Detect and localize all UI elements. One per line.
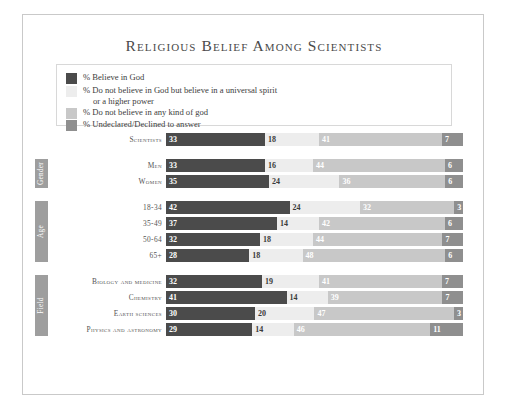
bar-segment-0: 42 bbox=[166, 201, 290, 214]
chart-row: 50-643218447 bbox=[23, 233, 485, 246]
bar-segment-2: 46 bbox=[294, 323, 431, 336]
bar-segment-1: 19 bbox=[262, 275, 319, 288]
row-label: Earth sciences bbox=[51, 307, 162, 320]
stacked-bar: 3020473 bbox=[166, 307, 463, 320]
row-label: Chemistry bbox=[51, 291, 162, 304]
bar-segment-2: 47 bbox=[314, 307, 454, 320]
bar-segment-value: 14 bbox=[255, 323, 263, 336]
bar-segment-2: 44 bbox=[313, 233, 442, 246]
bar-segment-value: 18 bbox=[268, 133, 276, 146]
bar-segment-value: 24 bbox=[293, 201, 301, 214]
bar-segment-value: 7 bbox=[445, 133, 449, 146]
bar-segment-2: 32 bbox=[360, 201, 454, 214]
chart-row: Men3316446 bbox=[23, 159, 485, 172]
bar-segment-2: 41 bbox=[319, 275, 442, 288]
bar-segment-value: 3 bbox=[457, 201, 461, 214]
bar-segment-2: 44 bbox=[313, 159, 445, 172]
bar-segment-value: 24 bbox=[272, 175, 280, 188]
bar-segment-value: 3 bbox=[457, 307, 461, 320]
stacked-bar: 3316446 bbox=[166, 159, 463, 172]
stacked-bar: 3318417 bbox=[166, 133, 463, 146]
legend: % Believe in God % Do not believe in God… bbox=[56, 64, 452, 126]
row-label: 35-49 bbox=[51, 217, 162, 230]
bar-segment-1: 14 bbox=[277, 217, 319, 230]
stacked-bar: 3218447 bbox=[166, 233, 463, 246]
bar-segment-3: 11 bbox=[430, 323, 463, 336]
bar-segment-2: 42 bbox=[319, 217, 445, 230]
chart-group-gender: GenderMen3316446Women3524366 bbox=[23, 159, 485, 188]
chart-row: Earth sciences3020473 bbox=[23, 307, 485, 320]
bar-segment-0: 33 bbox=[166, 133, 265, 146]
bar-segment-value: 28 bbox=[169, 249, 177, 262]
bar-segment-1: 18 bbox=[260, 233, 313, 246]
row-label: 50-64 bbox=[51, 233, 162, 246]
bar-segment-3: 7 bbox=[442, 133, 463, 146]
bar-segment-3: 7 bbox=[442, 275, 463, 288]
bar-segment-value: 16 bbox=[268, 159, 276, 172]
legend-item-0: % Believe in God bbox=[66, 72, 144, 84]
bar-segment-value: 42 bbox=[322, 217, 330, 230]
stacked-bar: 3524366 bbox=[166, 175, 463, 188]
bar-segment-3: 3 bbox=[454, 307, 463, 320]
bar-segment-value: 14 bbox=[280, 217, 288, 230]
bar-segment-0: 29 bbox=[166, 323, 252, 336]
row-label: Biology and medicine bbox=[51, 275, 162, 288]
legend-swatch-undeclared bbox=[66, 120, 77, 131]
bar-segment-value: 39 bbox=[331, 291, 339, 304]
bar-segment-3: 6 bbox=[445, 175, 463, 188]
bar-segment-0: 37 bbox=[166, 217, 277, 230]
bar-segment-value: 36 bbox=[342, 175, 350, 188]
bar-segment-value: 44 bbox=[316, 159, 324, 172]
chart-row: Biology and medicine3219417 bbox=[23, 275, 485, 288]
stacked-bar: 29144611 bbox=[166, 323, 463, 336]
bar-segment-value: 33 bbox=[169, 159, 177, 172]
legend-label-3: % Undeclared/Declined to answer bbox=[83, 119, 201, 130]
bar-segment-value: 41 bbox=[322, 133, 330, 146]
bar-segment-value: 32 bbox=[363, 201, 371, 214]
legend-label-0: % Believe in God bbox=[83, 72, 144, 83]
bar-segment-value: 32 bbox=[169, 233, 177, 246]
stacked-bar: 4224323 bbox=[166, 201, 463, 214]
bar-segment-value: 6 bbox=[448, 249, 452, 262]
bar-segment-1: 16 bbox=[265, 159, 313, 172]
bar-segment-1: 24 bbox=[290, 201, 361, 214]
bar-segment-3: 7 bbox=[442, 233, 463, 246]
stacked-bar: 3219417 bbox=[166, 275, 463, 288]
bar-segment-value: 44 bbox=[316, 233, 324, 246]
bar-segment-0: 41 bbox=[166, 291, 287, 304]
bar-segment-value: 42 bbox=[169, 201, 177, 214]
bar-segment-value: 19 bbox=[265, 275, 273, 288]
bar-segment-value: 6 bbox=[448, 175, 452, 188]
chart-group-overall: Scientists3318417 bbox=[23, 133, 485, 146]
legend-swatch-no-god bbox=[66, 108, 77, 119]
chart-row: 35-493714426 bbox=[23, 217, 485, 230]
bar-segment-0: 35 bbox=[166, 175, 269, 188]
row-label: 65+ bbox=[51, 249, 162, 262]
bar-segment-value: 7 bbox=[445, 291, 449, 304]
bar-segment-1: 18 bbox=[249, 249, 302, 262]
bar-segment-2: 41 bbox=[319, 133, 442, 146]
stacked-bar: 4114397 bbox=[166, 291, 463, 304]
row-label: 18-34 bbox=[51, 201, 162, 214]
row-label: Scientists bbox=[51, 133, 162, 146]
bar-segment-value: 7 bbox=[445, 233, 449, 246]
chart-body: Scientists3318417GenderMen3316446Women35… bbox=[23, 133, 485, 391]
stacked-bar: 3714426 bbox=[166, 217, 463, 230]
legend-swatch-universal-spirit bbox=[66, 86, 77, 97]
bar-segment-2: 48 bbox=[303, 249, 446, 262]
bar-segment-value: 6 bbox=[448, 159, 452, 172]
bar-segment-value: 46 bbox=[297, 323, 305, 336]
chart-row: 18-344224323 bbox=[23, 201, 485, 214]
bar-segment-0: 30 bbox=[166, 307, 255, 320]
bar-segment-0: 32 bbox=[166, 275, 262, 288]
bar-segment-0: 33 bbox=[166, 159, 265, 172]
bar-segment-1: 14 bbox=[252, 323, 294, 336]
bar-segment-value: 37 bbox=[169, 217, 177, 230]
legend-label-1-line2: or a higher power bbox=[83, 96, 277, 107]
chart-group-age: Age18-34422432335-49371442650-6432184476… bbox=[23, 201, 485, 262]
bar-segment-value: 30 bbox=[169, 307, 177, 320]
bar-segment-value: 18 bbox=[252, 249, 260, 262]
chart-row: Physics and astronomy29144611 bbox=[23, 323, 485, 336]
bar-segment-2: 36 bbox=[339, 175, 445, 188]
bar-segment-1: 14 bbox=[287, 291, 328, 304]
